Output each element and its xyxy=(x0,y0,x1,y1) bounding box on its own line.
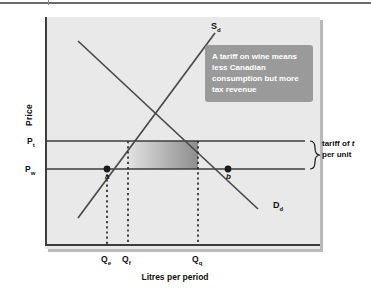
price-tariff-label: Pt xyxy=(27,136,35,148)
tariff-note-variable-t: t xyxy=(352,139,355,148)
y-axis-line xyxy=(45,17,47,246)
point-b-label: b xyxy=(226,172,231,181)
quantity-f-label: Qf xyxy=(122,254,131,266)
x-axis-label: Litres per period xyxy=(95,272,255,282)
tariff-note-line1-pre: tariff of xyxy=(322,139,352,148)
quantity-e-label: Qe xyxy=(101,254,111,266)
price-world-label: Pw xyxy=(25,164,35,176)
quantity-q-label: Qq xyxy=(192,254,202,266)
tariff-note-line2: per unit xyxy=(322,150,351,159)
tariff-bracket-note: tariff of t per unit xyxy=(322,139,370,160)
demand-curve-label: Dd xyxy=(273,200,283,212)
supply-curve-label: Sd xyxy=(211,21,221,33)
x-axis-line xyxy=(45,244,320,246)
callout-box: A tariff on wine means less Canadian con… xyxy=(205,45,313,102)
point-a-label: a xyxy=(105,172,109,181)
tariff-diagram: Price Litres per period Pt Pw Qe Qf Qq S… xyxy=(0,0,371,292)
